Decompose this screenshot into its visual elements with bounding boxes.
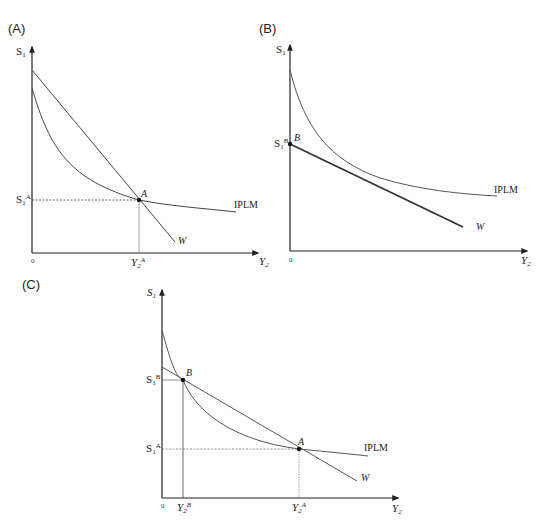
s1a-label: S1A bbox=[16, 193, 31, 207]
s1b-label: S1B bbox=[146, 373, 161, 387]
y2a-label: Y2A bbox=[292, 501, 307, 515]
w-line bbox=[162, 367, 357, 481]
w-label: W bbox=[361, 472, 371, 483]
y-axis-label: S1 bbox=[276, 43, 286, 57]
iplm-label: IPLM bbox=[494, 184, 518, 195]
point-b-label: B bbox=[186, 367, 192, 378]
point-a-label: A bbox=[297, 436, 305, 447]
panel-c-label: (C) bbox=[22, 277, 40, 292]
s1b-label: S1B bbox=[274, 137, 289, 151]
origin-label: 0 bbox=[161, 502, 165, 510]
iplm-label: IPLM bbox=[364, 442, 388, 453]
y2a-label: Y2A bbox=[131, 256, 146, 270]
s1a-label: S1A bbox=[146, 442, 161, 456]
panel-a-label: (A) bbox=[8, 21, 25, 36]
y2b-label: Y2B bbox=[177, 501, 192, 515]
x-axis-label: Y2 bbox=[259, 255, 269, 269]
iplm-curve bbox=[162, 330, 368, 456]
point-b-label: B bbox=[294, 132, 300, 143]
point-a-label: A bbox=[140, 188, 148, 199]
iplm-curve bbox=[290, 70, 497, 196]
panel-b-label: (B) bbox=[259, 21, 276, 36]
w-line bbox=[32, 70, 175, 242]
origin-label: 0 bbox=[31, 257, 35, 265]
w-label: W bbox=[178, 235, 188, 246]
point-b bbox=[288, 142, 292, 146]
x-axis-label: Y2 bbox=[392, 502, 402, 516]
panel-b: (B) S1 Y2 0 B IPLM W S1B bbox=[259, 21, 531, 268]
figure-canvas: (A) S1 Y2 0 A IPLM W S1A Y2A (B) S1 Y2 0 bbox=[0, 0, 546, 525]
point-b bbox=[181, 378, 185, 382]
x-axis-label: Y2 bbox=[521, 254, 531, 268]
y-axis-label: S1 bbox=[16, 45, 26, 59]
w-line bbox=[290, 144, 463, 227]
point-a bbox=[297, 447, 301, 451]
iplm-label: IPLM bbox=[234, 199, 258, 210]
origin-label: 0 bbox=[289, 256, 293, 264]
w-label: W bbox=[476, 221, 486, 232]
y-axis-label: S1 bbox=[147, 286, 156, 300]
panel-c: (C) S1 Y2 0 B A IPLM W S1B S1A Y2B Y2A bbox=[22, 277, 402, 516]
panel-a: (A) S1 Y2 0 A IPLM W S1A Y2A bbox=[8, 21, 269, 270]
